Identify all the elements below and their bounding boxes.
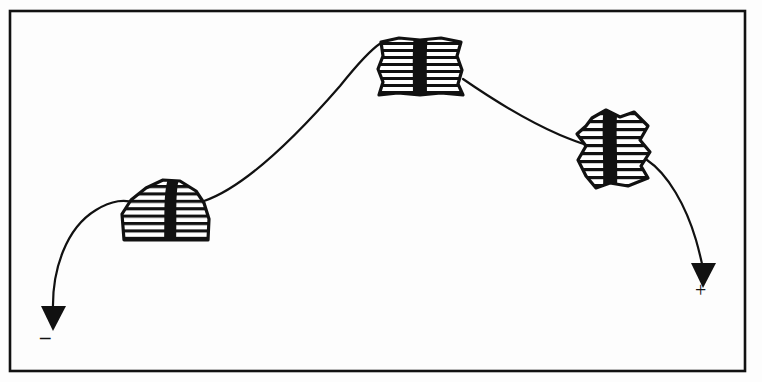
segment-right-exit bbox=[647, 160, 703, 268]
segment-block2-to-block3 bbox=[463, 79, 587, 145]
diagram-canvas bbox=[0, 0, 762, 382]
hatched-blob-2 bbox=[374, 34, 470, 100]
figure-border bbox=[10, 11, 745, 371]
figure-container: – + bbox=[0, 0, 762, 382]
blob-3-center-bar bbox=[603, 104, 618, 192]
blob-2-center-bar bbox=[413, 34, 428, 100]
plus-sign-label: + bbox=[695, 280, 706, 300]
hatched-blob-3 bbox=[572, 104, 656, 192]
hatched-blob-1 bbox=[118, 176, 216, 246]
segment-mound1-to-block2 bbox=[204, 43, 381, 201]
minus-sign-label: – bbox=[40, 327, 51, 348]
